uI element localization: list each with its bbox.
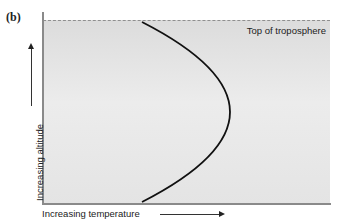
- y-axis-label: Increasing altitude: [34, 124, 45, 201]
- y-axis-arrow-icon: [31, 48, 32, 106]
- x-axis-label: Increasing temperature: [42, 208, 140, 219]
- x-axis-arrow-icon: [160, 214, 220, 215]
- temperature-altitude-curve: [0, 0, 338, 223]
